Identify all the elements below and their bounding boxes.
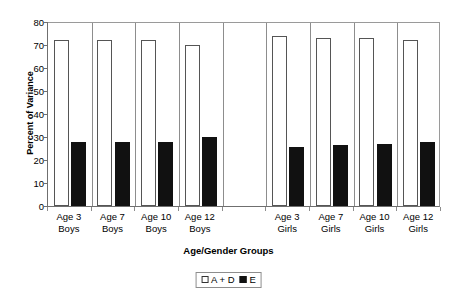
y-axis-tick-mark — [44, 114, 48, 115]
y-axis-tick-label: 80 — [18, 18, 44, 27]
category-divider — [92, 23, 93, 206]
x-axis-category-label-gender: Girls — [396, 223, 440, 235]
legend-entry: E — [240, 274, 256, 285]
bar-a-plus-d — [185, 45, 200, 206]
y-axis-tick-mark — [44, 22, 48, 23]
y-axis-tick-label: 30 — [18, 133, 44, 142]
chart-category-slot — [266, 23, 310, 206]
x-axis-category-label-age: Age 3 — [265, 211, 309, 223]
y-axis-tick-label: 40 — [18, 110, 44, 119]
x-axis-category-label: Age 12Boys — [178, 211, 222, 235]
bar-a-plus-d — [359, 38, 374, 206]
x-axis-category-label-gender: Boys — [47, 223, 91, 235]
legend-label: E — [250, 274, 256, 285]
category-divider — [266, 23, 267, 206]
y-axis-tick-label: 20 — [18, 156, 44, 165]
y-axis-tick-mark — [44, 160, 48, 161]
bar-a-plus-d — [141, 40, 156, 206]
bar-e — [377, 144, 392, 206]
x-axis-title: Age/Gender Groups — [0, 245, 457, 256]
category-divider — [179, 23, 180, 206]
category-divider — [135, 23, 136, 206]
legend-label: A + D — [211, 274, 235, 285]
x-axis-category-label: Age 3Boys — [47, 211, 91, 235]
chart-category-slot — [310, 23, 354, 206]
bar-a-plus-d — [97, 40, 112, 206]
x-axis-category-label-age: Age 3 — [47, 211, 91, 223]
y-axis-tick-label: 0 — [18, 202, 44, 211]
x-axis-category-label-gender: Boys — [91, 223, 135, 235]
x-axis-category-label: Age 12Girls — [396, 211, 440, 235]
chart-category-slot — [354, 23, 398, 206]
x-axis-category-label-age: Age 10 — [134, 211, 178, 223]
x-axis-category-label: Age 3Girls — [265, 211, 309, 235]
x-axis-category-label-age: Age 10 — [353, 211, 397, 223]
bar-e — [202, 137, 217, 206]
x-axis-tick-mark — [440, 207, 441, 211]
bar-a-plus-d — [316, 38, 331, 206]
bar-e — [115, 142, 130, 206]
x-axis-category-label: Age 7Girls — [309, 211, 353, 235]
y-axis-tick-label: 50 — [18, 87, 44, 96]
bar-a-plus-d — [272, 36, 287, 206]
bar-e — [158, 142, 173, 206]
category-divider — [354, 23, 355, 206]
legend-entry: A + D — [201, 274, 235, 285]
chart-category-slot — [135, 23, 179, 206]
y-axis-tick-labels: 01020304050607080 — [18, 22, 44, 207]
bar-e — [420, 142, 435, 206]
chart-category-slot — [397, 23, 441, 206]
x-axis-category-label-gender: Boys — [134, 223, 178, 235]
x-axis-category-label-age: Age 12 — [396, 211, 440, 223]
y-axis-tick-mark — [44, 45, 48, 46]
x-axis-category-label-age: Age 7 — [91, 211, 135, 223]
y-axis-tick-label: 60 — [18, 64, 44, 73]
x-axis-category-label-gender: Boys — [178, 223, 222, 235]
chart-category-slot — [179, 23, 223, 206]
category-divider — [223, 23, 224, 206]
x-axis-category-label: Age 10Girls — [353, 211, 397, 235]
bar-chart: Percent of Variance 01020304050607080 Ag… — [0, 0, 457, 300]
plot-area — [47, 22, 440, 207]
x-axis-category-label-gender: Girls — [265, 223, 309, 235]
bar-a-plus-d — [403, 40, 418, 206]
y-axis-tick-label: 70 — [18, 41, 44, 50]
chart-category-slot — [92, 23, 136, 206]
x-axis-category-label-gender: Girls — [353, 223, 397, 235]
category-divider — [397, 23, 398, 206]
x-axis-category-label-gender: Girls — [309, 223, 353, 235]
y-axis-tick-label: 10 — [18, 179, 44, 188]
chart-category-slot — [223, 23, 267, 206]
y-axis-tick-mark — [44, 183, 48, 184]
white-square-icon — [201, 276, 208, 283]
x-axis-category-label-age: Age 7 — [309, 211, 353, 223]
y-axis-tick-mark — [44, 91, 48, 92]
bar-a-plus-d — [54, 40, 69, 206]
chart-category-slot — [48, 23, 92, 206]
bar-e — [71, 142, 86, 206]
y-axis-tick-mark — [44, 137, 48, 138]
x-axis-category-label: Age 10Boys — [134, 211, 178, 235]
black-square-icon — [240, 276, 247, 283]
y-axis-tick-mark — [44, 68, 48, 69]
x-axis-category-label-age: Age 12 — [178, 211, 222, 223]
category-divider — [310, 23, 311, 206]
x-axis-tick-mark — [222, 207, 223, 211]
bar-e — [289, 147, 304, 206]
bar-e — [333, 145, 348, 206]
chart-legend: A + DE — [195, 272, 262, 288]
x-axis-category-label: Age 7Boys — [91, 211, 135, 235]
